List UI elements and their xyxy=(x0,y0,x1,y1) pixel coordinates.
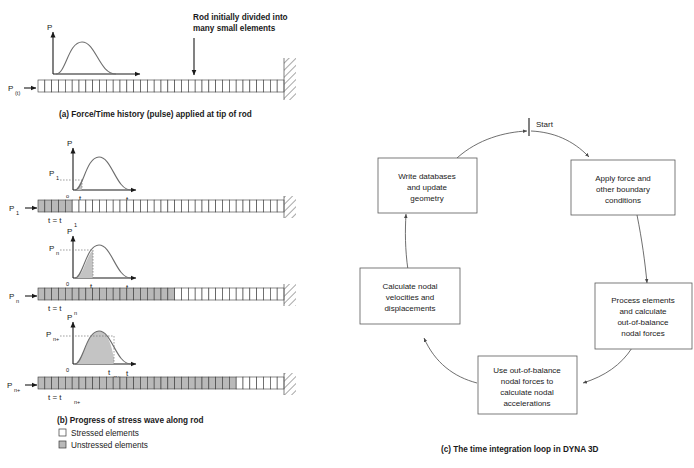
stage-1-wall-hatch xyxy=(284,196,296,218)
stage-2-rod-element xyxy=(59,288,66,300)
flowbox-apply-force-line-1: Apply force and xyxy=(595,174,651,183)
stage-1-rod-element xyxy=(270,200,277,212)
stage-1-rod-element xyxy=(216,200,223,212)
panel-b-stage-2: P t P n 0 t n P n t = t n xyxy=(9,227,296,316)
panel-b-stage-3-graph: P t P n+ 0 t n+ xyxy=(46,313,136,380)
stage-1-rod xyxy=(38,200,284,212)
stage-3-rod-element xyxy=(86,377,93,389)
stage-2-force-subscript: n xyxy=(16,298,19,304)
panel-a-annotation-line2: many small elements xyxy=(193,24,276,33)
panel-a-rod-element xyxy=(229,80,236,92)
stage-1-rod-element xyxy=(52,200,59,212)
arrow-process-to-use xyxy=(583,348,632,383)
figure-canvas: Rod initially divided into many small el… xyxy=(0,0,694,468)
panel-a-graph: P t xyxy=(47,23,140,88)
stage-2-time-caption-text: t = t xyxy=(48,304,62,313)
panel-a-y-axis-label: P xyxy=(47,23,52,32)
panel-a-force-label: P (t) xyxy=(8,84,36,96)
stage-2-rod-element xyxy=(141,288,148,300)
flowbox-write-databases-line-1: Write databases xyxy=(398,172,456,181)
panel-a-wall xyxy=(284,58,296,100)
stage-3-rod-element xyxy=(38,377,45,389)
flowbox-use-out-of-balance-line-4: accelerations xyxy=(503,399,550,408)
stage-3-wall xyxy=(284,373,296,395)
stage-3-rod-element xyxy=(134,377,141,389)
panel-b-stage-2-graph: P t P n 0 t n xyxy=(49,227,136,294)
panel-a-rod-element xyxy=(72,80,79,92)
stage-3-rod-element xyxy=(113,377,120,389)
stage-1-level-label: P xyxy=(49,169,54,178)
stage-1-rod-element xyxy=(229,200,236,212)
stage-3-rod-element xyxy=(72,377,79,389)
panel-a-rod-element xyxy=(216,80,223,92)
stage-2-level-subscript: n xyxy=(56,250,59,256)
arrow-calculate-to-write xyxy=(405,214,408,270)
panel-a-rod-element xyxy=(250,80,257,92)
stage-3-time-label: t xyxy=(108,368,111,377)
panel-a-rod-element xyxy=(134,80,141,92)
stage-1-rod-element xyxy=(250,200,257,212)
panel-a-rod xyxy=(38,80,284,92)
stage-1-rod-element xyxy=(243,200,250,212)
stage-1-rod-element xyxy=(188,200,195,212)
flowbox-calculate-nodal[interactable]: Calculate nodal velocities and displacem… xyxy=(360,268,460,324)
stage-1-rod-element xyxy=(277,200,284,212)
stage-2-rod-element xyxy=(229,288,236,300)
panel-a-rod-element xyxy=(195,80,202,92)
panel-a-rod-element xyxy=(106,80,113,92)
stage-2-rod-element xyxy=(45,288,52,300)
flowbox-process-elements-rect[interactable] xyxy=(595,283,692,349)
stage-2-rod-element xyxy=(223,288,230,300)
stage-1-wall xyxy=(284,196,296,218)
panel-a-rod-element xyxy=(120,80,127,92)
panel-a-rod-element xyxy=(100,80,107,92)
stage-2-rod-element xyxy=(188,288,195,300)
panel-a-rod-element xyxy=(202,80,209,92)
flowbox-use-out-of-balance[interactable]: Use out-of-balance nodal forces to calcu… xyxy=(478,356,577,414)
stage-1-rod-element xyxy=(113,200,120,212)
stage-3-rod-element xyxy=(168,377,175,389)
stage-3-y-axis-label: P xyxy=(67,313,72,322)
flowbox-process-elements[interactable]: Process elements and calculate out-of-ba… xyxy=(595,283,692,349)
stage-3-rod-element xyxy=(52,377,59,389)
arrow-write-to-start xyxy=(457,131,527,158)
stage-3-rod-element xyxy=(236,377,243,389)
stage-3-rod-element xyxy=(65,377,72,389)
stage-2-rod-element xyxy=(264,288,271,300)
stage-2-rod-element xyxy=(86,288,93,300)
stage-2-rod-element xyxy=(113,288,120,300)
flowbox-apply-force[interactable]: Apply force and other boundary condition… xyxy=(571,160,675,215)
flowbox-write-databases-line-2: and update xyxy=(407,183,448,192)
panel-a-rod-element xyxy=(161,80,168,92)
stage-3-rod-element xyxy=(182,377,189,389)
stage-1-rod-element xyxy=(236,200,243,212)
stage-3-rod-element xyxy=(59,377,66,389)
stage-1-rod-element xyxy=(93,200,100,212)
stage-1-rod-element xyxy=(100,200,107,212)
stage-3-rod-element xyxy=(175,377,182,389)
stage-3-rod-element xyxy=(257,377,264,389)
stage-3-force-symbol: P xyxy=(7,381,12,390)
stage-3-level-label: P xyxy=(46,330,51,339)
stage-2-rod xyxy=(38,288,284,300)
stage-1-rod-element xyxy=(154,200,161,212)
stage-3-rod-element xyxy=(277,377,284,389)
stage-1-y-axis-label: P xyxy=(67,139,72,148)
stage-2-origin-label: 0 xyxy=(66,281,69,287)
flowbox-write-databases[interactable]: Write databases and update geometry xyxy=(378,158,477,213)
stage-1-rod-element xyxy=(202,200,209,212)
stage-3-time-caption: t = t n+ xyxy=(48,393,80,405)
panel-a-rod-element xyxy=(93,80,100,92)
panel-a-rod-element xyxy=(209,80,216,92)
panel-c: Start Write databases and update geometr… xyxy=(360,118,692,454)
stage-3-rod-element xyxy=(195,377,202,389)
stage-2-rod-element xyxy=(100,288,107,300)
flowbox-use-out-of-balance-line-2: nodal forces to xyxy=(501,377,554,386)
panel-a-rod-element xyxy=(141,80,148,92)
stage-3-rod-element xyxy=(243,377,250,389)
stage-1-rod-element xyxy=(182,200,189,212)
stage-2-rod-element xyxy=(120,288,127,300)
stage-3-rod-element xyxy=(216,377,223,389)
stage-3-rod-element xyxy=(79,377,86,389)
legend-swatch-unstressed xyxy=(59,441,66,448)
